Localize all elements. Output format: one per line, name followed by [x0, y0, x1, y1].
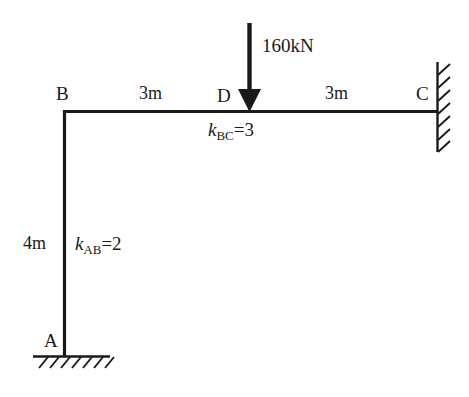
support-c-hatching	[438, 64, 450, 152]
dimension-label-dc: 3m	[325, 84, 348, 102]
node-label-b: B	[56, 84, 69, 103]
node-label-a: A	[44, 331, 58, 350]
stiffness-label-ab: kAB=2	[75, 234, 122, 253]
stiffness-equals-ab: =	[101, 233, 112, 254]
load-arrow-160kn	[238, 23, 261, 112]
stiffness-subscript-bc: BC	[216, 128, 233, 143]
stiffness-equals-bc: =	[234, 119, 245, 140]
stiffness-label-bc: kBC=3	[208, 120, 254, 139]
structural-frame-diagram: B D C A 3m 3m 4m 160kN kBC=3 kAB=2	[0, 0, 469, 397]
node-label-c: C	[416, 84, 429, 103]
node-label-d: D	[217, 86, 231, 105]
frame-geometry	[0, 0, 469, 397]
stiffness-value-bc: 3	[244, 119, 254, 140]
stiffness-value-ab: 2	[112, 233, 122, 254]
dimension-label-bd: 3m	[139, 84, 162, 102]
dimension-label-ab: 4m	[23, 234, 46, 252]
stiffness-subscript-ab: AB	[83, 242, 101, 257]
load-magnitude-label: 160kN	[262, 36, 314, 55]
support-a-hatching	[39, 357, 114, 368]
